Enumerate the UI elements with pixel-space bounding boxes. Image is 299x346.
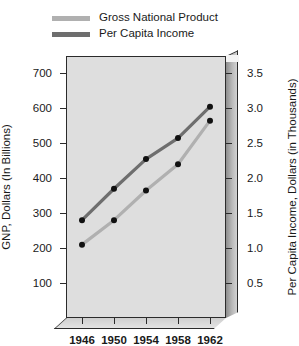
plot-right-face	[226, 50, 238, 318]
legend-label-gross-national-product: Gross National Product	[99, 12, 218, 24]
data-point	[79, 217, 85, 223]
chart-legend: Gross National Product Per Capita Income	[52, 10, 218, 42]
plot-area: 100200300400500600700 0.51.01.52.02.53.0…	[66, 56, 226, 318]
y-axis-right-tick	[226, 178, 232, 179]
y-axis-left-tick-label: 400	[12, 172, 52, 184]
x-axis-tick-label: 1958	[165, 334, 191, 346]
legend-swatch-per-capita-income	[52, 32, 90, 37]
series-line-gross-national-product	[82, 121, 210, 245]
y-axis-left-tick	[60, 178, 66, 179]
y-axis-left-tick-label: 700	[12, 67, 52, 79]
x-axis-tick	[146, 318, 147, 324]
y-axis-left-tick-label: 600	[12, 102, 52, 114]
data-point	[175, 135, 181, 141]
data-point	[207, 104, 213, 110]
y-axis-right-tick-label: 3.5	[247, 67, 287, 79]
x-axis-tick-label: 1946	[69, 334, 95, 346]
y-axis-left-title: GNP, Dollars (In Billions)	[0, 124, 12, 250]
y-axis-left-tick	[60, 73, 66, 74]
legend-swatch-gross-national-product	[52, 16, 90, 21]
y-axis-left-tick-label: 100	[12, 277, 52, 289]
y-axis-right-tick-label: 1.0	[247, 242, 287, 254]
y-axis-right-tick	[226, 248, 232, 249]
y-axis-left-tick	[60, 283, 66, 284]
series-layer	[66, 56, 226, 318]
y-axis-left-tick	[60, 143, 66, 144]
y-axis-right-title: Per Capita Income, Dollars (in Thousands…	[286, 78, 298, 295]
x-axis-tick	[114, 318, 115, 324]
y-axis-right-tick	[226, 213, 232, 214]
y-axis-left-tick	[60, 248, 66, 249]
legend-item-gross-national-product: Gross National Product	[52, 10, 218, 26]
y-axis-left-tick	[60, 108, 66, 109]
data-point	[143, 187, 149, 193]
data-point	[111, 186, 117, 192]
y-axis-right-tick-label: 2.0	[247, 172, 287, 184]
x-axis-tick-label: 1950	[101, 334, 127, 346]
x-axis-tick	[82, 318, 83, 324]
legend-label-per-capita-income: Per Capita Income	[99, 28, 194, 40]
y-axis-right-tick-label: 0.5	[247, 277, 287, 289]
plot-top-cap	[226, 55, 239, 62]
x-axis-tick	[210, 318, 211, 324]
y-axis-left-tick	[60, 213, 66, 214]
y-axis-right-tick	[226, 143, 232, 144]
data-point	[111, 217, 117, 223]
y-axis-right-tick	[226, 283, 232, 284]
y-axis-right-tick-label: 1.5	[247, 207, 287, 219]
legend-item-per-capita-income: Per Capita Income	[52, 26, 218, 42]
y-axis-right-tick	[226, 108, 232, 109]
y-axis-left-tick-label: 500	[12, 137, 52, 149]
plot-bottom-face	[54, 318, 226, 329]
series-line-per-capita-income	[82, 107, 210, 221]
y-axis-right-tick-label: 2.5	[247, 137, 287, 149]
y-axis-left-tick-label: 200	[12, 242, 52, 254]
data-point	[207, 118, 213, 124]
data-point	[79, 242, 85, 248]
data-point	[175, 161, 181, 167]
y-axis-left-tick-label: 300	[12, 207, 52, 219]
x-axis-tick-label: 1954	[133, 334, 159, 346]
y-axis-right-tick	[226, 73, 232, 74]
x-axis-tick-label: 1962	[197, 334, 223, 346]
y-axis-right-tick-label: 3.0	[247, 102, 287, 114]
x-axis-tick	[178, 318, 179, 324]
data-point	[143, 156, 149, 162]
